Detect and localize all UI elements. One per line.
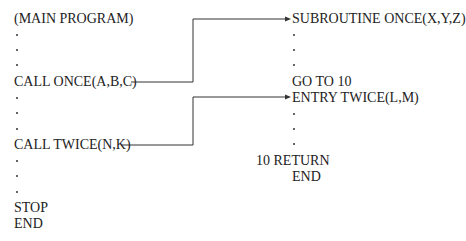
arrowhead-icon — [285, 95, 291, 100]
arrowhead-icon — [285, 17, 291, 22]
call-twice-connector — [121, 97, 288, 145]
call-once-connector — [131, 19, 288, 82]
